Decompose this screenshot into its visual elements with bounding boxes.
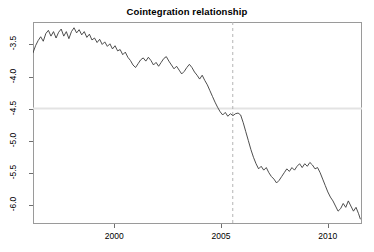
y-tick-label: -4.5 <box>8 95 18 121</box>
y-tick-label: -5.5 <box>8 159 18 185</box>
x-tick-label: 2000 <box>94 231 134 241</box>
chart-root: Cointegration relationship -3.5-4.0-4.5-… <box>0 0 374 252</box>
x-tick-mark <box>328 224 329 228</box>
x-tick-mark <box>114 224 115 228</box>
x-tick-label: 2010 <box>308 231 348 241</box>
y-tick-label: -3.5 <box>8 30 18 56</box>
chart-title: Cointegration relationship <box>0 6 374 17</box>
series-cointegration-residual <box>33 28 360 219</box>
x-tick-mark <box>221 224 222 228</box>
x-tick-label: 2005 <box>201 231 241 241</box>
y-tick-label: -6.0 <box>8 191 18 217</box>
y-tick-label: -5.0 <box>8 127 18 153</box>
y-tick-label: -4.0 <box>8 63 18 89</box>
plot-area <box>33 22 362 224</box>
series-line-chart <box>33 22 362 224</box>
